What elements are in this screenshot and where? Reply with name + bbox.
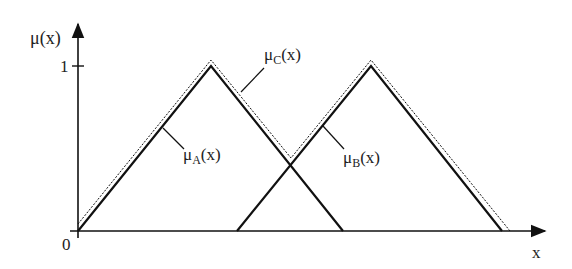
curve-c-dotted bbox=[78, 60, 510, 231]
label-mu-b: μB(x) bbox=[343, 148, 380, 170]
origin-label: 0 bbox=[62, 235, 71, 254]
y-axis-label: μ(x) bbox=[30, 28, 61, 49]
membership-diagram: μ(x) 1 0 x μC(x) μA(x) μB(x) bbox=[0, 0, 572, 269]
label-mu-a: μA(x) bbox=[183, 145, 221, 167]
leader-b bbox=[323, 126, 344, 149]
leader-a bbox=[163, 128, 184, 149]
y-tick-label: 1 bbox=[60, 57, 69, 76]
x-axis-label: x bbox=[532, 243, 541, 262]
label-mu-c: μC(x) bbox=[264, 45, 301, 67]
leader-c bbox=[241, 68, 264, 92]
